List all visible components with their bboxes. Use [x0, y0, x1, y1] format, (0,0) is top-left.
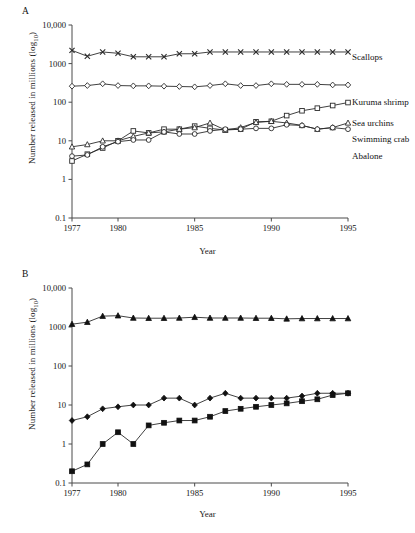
data-point	[269, 126, 274, 131]
data-point	[238, 127, 243, 132]
data-point	[177, 418, 182, 423]
panel-b-x-axis-label: Year	[0, 509, 415, 519]
data-point	[115, 83, 120, 89]
data-point	[70, 469, 75, 474]
data-point	[315, 397, 320, 402]
data-point	[192, 132, 197, 137]
data-point	[254, 404, 259, 409]
x-tick-label: 1977	[63, 223, 81, 233]
data-point	[85, 462, 90, 467]
data-point	[315, 81, 320, 87]
data-point	[345, 120, 350, 125]
data-point	[330, 82, 335, 88]
data-point	[192, 402, 197, 408]
y-tick-label: 10,000	[42, 20, 66, 30]
y-tick-label: 0.1	[55, 213, 66, 223]
data-point	[238, 406, 243, 411]
data-point	[85, 414, 90, 420]
panel-b: B Number released in millions (log10) 10…	[0, 266, 415, 533]
data-point	[299, 81, 304, 87]
data-point	[131, 138, 136, 143]
data-point	[85, 54, 90, 59]
data-point	[223, 127, 228, 132]
x-tick-label: 1985	[186, 488, 203, 498]
data-point	[223, 409, 228, 414]
data-point	[115, 404, 120, 410]
data-point	[162, 130, 167, 135]
data-point	[69, 83, 74, 89]
series-label-swimming-crab: Swimming crab	[352, 134, 409, 144]
panel-a-x-axis-label: Year	[0, 246, 415, 256]
data-point	[177, 132, 182, 137]
data-point	[238, 395, 243, 401]
x-tick-label: 1980	[109, 223, 126, 233]
data-point	[192, 418, 197, 423]
data-point	[223, 81, 228, 87]
data-point	[131, 83, 136, 89]
data-point	[284, 81, 289, 87]
data-point	[284, 395, 289, 401]
data-point	[192, 84, 197, 90]
series-kuruma-shrimp	[69, 81, 350, 90]
series-label-scallops: Scallops	[352, 52, 383, 62]
y-tick-label: 100	[53, 361, 66, 371]
y-tick-label: 10	[57, 136, 66, 146]
y-tick-label: 10	[57, 400, 66, 410]
data-point	[116, 430, 121, 435]
data-point	[131, 442, 136, 447]
data-point	[70, 154, 75, 159]
data-point	[208, 414, 213, 419]
x-tick-label: 1995	[339, 223, 356, 233]
series-flounder	[70, 391, 351, 474]
data-point	[284, 113, 289, 118]
data-point	[346, 127, 351, 132]
data-point	[330, 103, 335, 108]
data-point	[330, 125, 335, 130]
data-point	[161, 83, 166, 89]
data-point	[315, 127, 320, 132]
panel-a-plot: 10,00010001001010.119771980198519901995	[0, 0, 415, 266]
data-point	[300, 399, 305, 404]
data-point	[207, 120, 212, 125]
data-point	[146, 402, 151, 408]
y-tick-label: 100	[53, 97, 66, 107]
series-label-kuruma-shrimp: Kuruma shrimp	[352, 97, 409, 107]
data-point	[346, 391, 351, 396]
x-tick-label: 1977	[63, 488, 81, 498]
data-point	[223, 390, 228, 396]
data-point	[69, 418, 74, 424]
data-point	[300, 108, 305, 113]
data-point	[146, 83, 151, 89]
data-point	[284, 122, 289, 127]
series-label-sea-urchins: Sea urchins	[352, 118, 394, 128]
data-point	[100, 442, 105, 447]
series-chum-salmon	[69, 313, 351, 327]
panel-b-plot: 10,00010001001010.119771980198519901995	[0, 266, 415, 533]
data-point	[100, 144, 105, 149]
data-point	[253, 83, 258, 89]
data-point	[116, 139, 121, 144]
data-point	[177, 395, 182, 401]
data-point	[177, 84, 182, 90]
series-scallops	[69, 48, 350, 60]
panel-a: A Number released in millions (log10) 10…	[0, 0, 415, 266]
data-point	[208, 129, 213, 134]
data-point	[330, 393, 335, 398]
data-point	[269, 395, 274, 401]
data-point	[269, 403, 274, 408]
data-point	[146, 423, 151, 428]
data-point	[131, 402, 136, 408]
data-point	[254, 126, 259, 131]
data-point	[70, 159, 75, 164]
data-point	[253, 395, 258, 401]
data-point	[346, 100, 351, 105]
data-point	[284, 401, 289, 406]
data-point	[269, 81, 274, 87]
y-tick-label: 1000	[49, 322, 66, 332]
data-point	[146, 138, 151, 143]
data-point	[345, 82, 350, 88]
data-point	[161, 395, 166, 401]
data-point	[315, 106, 320, 111]
y-tick-label: 1	[62, 174, 66, 184]
data-point	[85, 83, 90, 89]
